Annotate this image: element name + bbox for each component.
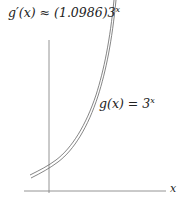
x-axis-label: x <box>170 182 176 195</box>
derivative-label: g′(x) ≈ (1.0986)3x <box>8 5 120 20</box>
function-label: g(x) = 3x <box>99 96 155 111</box>
curve-g <box>30 0 116 178</box>
